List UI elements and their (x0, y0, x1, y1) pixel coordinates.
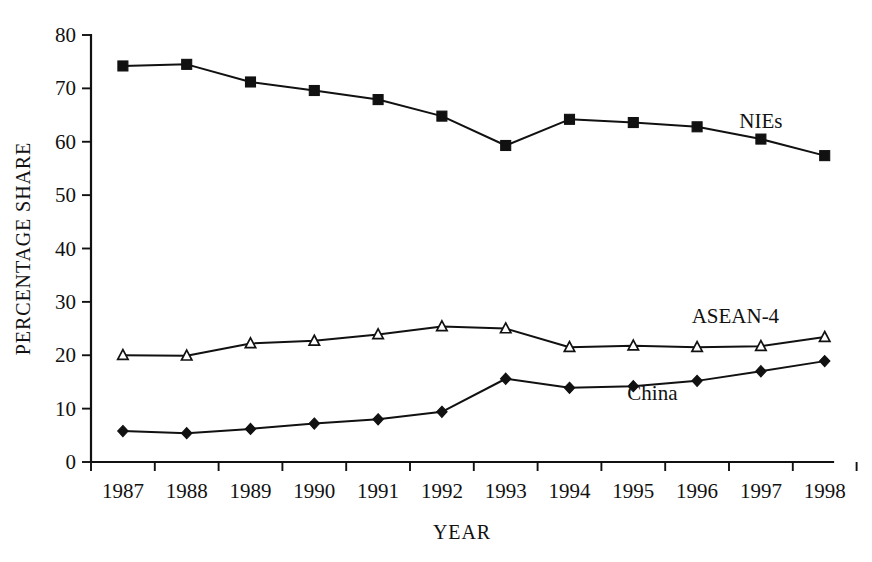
data-point-marker (756, 366, 766, 377)
x-axis-tick-label: 1992 (421, 479, 463, 503)
series-label-nies: NIEs (739, 109, 782, 133)
data-point-marker (692, 122, 702, 132)
data-point-marker (756, 134, 766, 144)
data-point-marker (820, 356, 830, 367)
y-axis-tick-label: 70 (55, 76, 76, 100)
y-axis-tick-label: 10 (55, 397, 76, 421)
series-nies (118, 59, 830, 160)
series-label-china: China (627, 381, 678, 405)
data-point-marker (820, 332, 830, 342)
data-point-marker (437, 111, 447, 121)
y-axis-tick-label: 0 (66, 450, 77, 474)
x-axis-tick-label: 1988 (166, 479, 208, 503)
data-point-marker (501, 140, 511, 150)
x-axis-tick-label: 1997 (740, 479, 782, 503)
y-axis-tick-label: 40 (55, 237, 76, 261)
chart-container: 0102030405060708019871988198919901991199… (0, 0, 872, 562)
axis-lines (91, 35, 833, 462)
x-axis-tick-label: 1990 (293, 479, 335, 503)
data-point-marker (118, 61, 128, 71)
x-axis-tick-label: 1995 (612, 479, 654, 503)
chart-series (118, 59, 830, 438)
data-point-marker (692, 375, 702, 386)
series-line (123, 64, 825, 155)
series-label-asean-4: ASEAN-4 (692, 304, 780, 328)
line-chart: 0102030405060708019871988198919901991199… (0, 0, 872, 562)
data-point-marker (565, 114, 575, 124)
x-axis-tick-label: 1991 (357, 479, 399, 503)
x-axis-tick-label: 1994 (549, 479, 592, 503)
series-line (123, 361, 825, 433)
data-point-marker (118, 425, 128, 436)
x-axis-tick-label: 1993 (485, 479, 527, 503)
y-axis-tick-label: 60 (55, 130, 76, 154)
data-point-marker (373, 414, 383, 425)
y-axis-tick-label: 80 (55, 23, 76, 47)
data-point-marker (501, 373, 511, 384)
x-axis-tick-label: 1989 (230, 479, 272, 503)
x-axis-tick-label: 1998 (804, 479, 846, 503)
y-axis-title: PERCENTAGE SHARE (12, 142, 34, 355)
series-china (118, 356, 830, 439)
x-axis-tick-label: 1987 (102, 479, 144, 503)
data-point-marker (309, 86, 319, 96)
data-point-marker (245, 423, 255, 434)
data-point-marker (309, 418, 319, 429)
x-axis-title: YEAR (433, 521, 491, 543)
data-point-marker (373, 95, 383, 105)
data-point-marker (246, 77, 256, 87)
data-point-marker (564, 382, 574, 393)
data-point-marker (437, 406, 447, 417)
chart-axes: 0102030405060708019871988198919901991199… (12, 23, 857, 543)
y-axis-tick-label: 20 (55, 343, 76, 367)
data-point-marker (182, 59, 192, 69)
series-line (123, 326, 825, 355)
data-point-marker (628, 118, 638, 128)
data-point-marker (820, 151, 830, 161)
y-axis-tick-label: 30 (55, 290, 76, 314)
x-axis-tick-label: 1996 (676, 479, 718, 503)
chart-annotations: NIEsASEAN-4China (627, 109, 782, 405)
data-point-marker (182, 428, 192, 439)
y-axis-tick-label: 50 (55, 183, 76, 207)
